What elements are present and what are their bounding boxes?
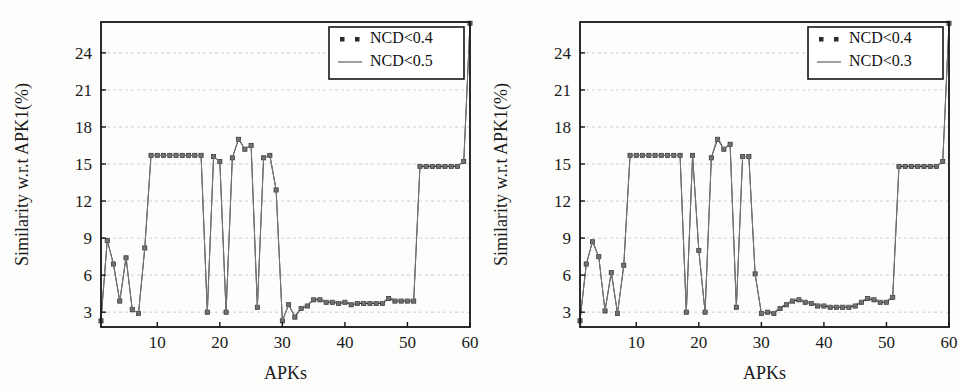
y-tick-label: 24 — [554, 44, 572, 63]
y-axis-label: Similarity w.r.t APK1(%) — [491, 83, 512, 266]
right-chart-svg: 1020304050603691215182124APKsSimilarity … — [479, 0, 958, 390]
left-chart-panel: 1020304050603691215182124APKsSimilarity … — [0, 0, 479, 390]
legend: NCD<0.4NCD<0.5 — [329, 27, 464, 79]
x-tick-label: 20 — [690, 333, 707, 352]
legend-marker-icon — [355, 37, 360, 42]
legend-marker-icon — [819, 37, 824, 42]
y-tick-label: 18 — [75, 118, 92, 137]
y-tick-label: 15 — [75, 155, 92, 174]
y-tick-label: 9 — [84, 229, 93, 248]
left-chart-svg: 1020304050603691215182124APKsSimilarity … — [0, 0, 479, 390]
y-axis-label: Similarity w.r.t APK1(%) — [12, 83, 33, 266]
y-tick-label: 3 — [84, 303, 93, 322]
y-tick-label: 6 — [563, 266, 572, 285]
y-tick-label: 12 — [75, 192, 92, 211]
x-tick-label: 30 — [274, 333, 291, 352]
x-tick-label: 40 — [815, 333, 832, 352]
x-tick-label: 30 — [753, 333, 770, 352]
y-tick-label: 12 — [554, 192, 571, 211]
x-tick-label: 10 — [628, 333, 645, 352]
right-chart-panel: 1020304050603691215182124APKsSimilarity … — [479, 0, 958, 390]
x-tick-label: 10 — [149, 333, 166, 352]
legend-label: NCD<0.4 — [370, 29, 433, 46]
x-tick-label: 40 — [336, 333, 353, 352]
legend-label: NCD<0.4 — [849, 29, 912, 46]
x-tick-label: 60 — [941, 333, 958, 352]
figure-container: 1020304050603691215182124APKsSimilarity … — [0, 0, 958, 390]
y-tick-label: 18 — [554, 118, 571, 137]
y-tick-label: 15 — [554, 155, 571, 174]
y-tick-label: 6 — [84, 266, 93, 285]
legend: NCD<0.4NCD<0.3 — [808, 27, 943, 79]
x-tick-label: 20 — [211, 333, 228, 352]
legend-marker-icon — [834, 37, 839, 42]
y-tick-label: 9 — [563, 229, 572, 248]
y-tick-label: 3 — [563, 303, 572, 322]
legend-marker-icon — [340, 37, 345, 42]
legend-label: NCD<0.3 — [849, 52, 912, 69]
x-tick-label: 50 — [878, 333, 895, 352]
y-tick-label: 21 — [554, 81, 571, 100]
x-tick-label: 50 — [399, 333, 416, 352]
y-tick-label: 24 — [75, 44, 93, 63]
legend-label: NCD<0.5 — [370, 52, 433, 69]
x-axis-label: APKs — [743, 363, 786, 383]
x-axis-label: APKs — [264, 363, 307, 383]
y-tick-label: 21 — [75, 81, 92, 100]
x-tick-label: 60 — [462, 333, 479, 352]
